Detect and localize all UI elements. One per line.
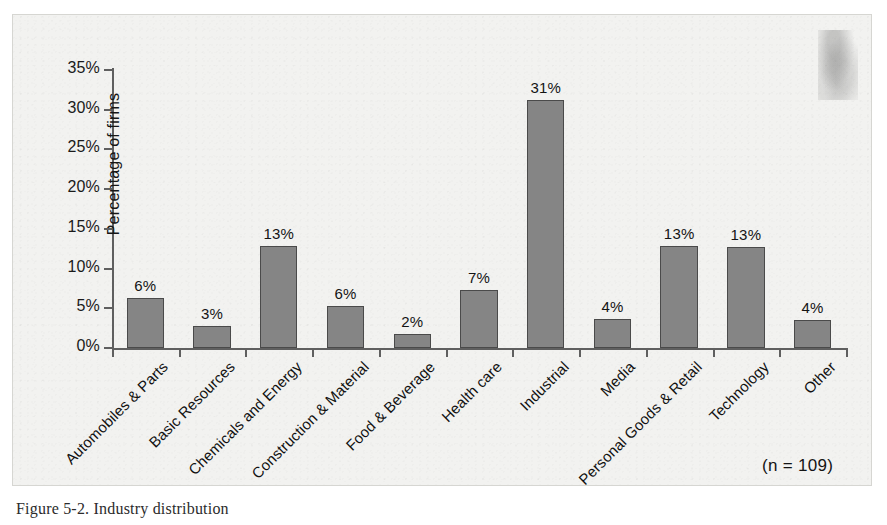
x-tick-mark [379,350,381,357]
bar: 13% [727,247,764,348]
x-tick-mark [779,350,781,357]
y-tick-label: 30% [44,99,100,117]
x-axis-line [112,348,848,350]
x-tick-mark [646,350,648,357]
bar-value-label: 6% [334,285,356,302]
figure-caption: Figure 5-2. Industry distribution [16,500,229,518]
y-tick-mark [104,148,112,150]
x-tick-mark [579,350,581,357]
bar: 2% [394,334,431,348]
x-tick-mark [312,350,314,357]
figure-page: Percentage of firms 0%5%10%15%20%25%30%3… [0,0,887,525]
y-tick-label: 25% [44,138,100,156]
y-tick-mark [104,347,112,349]
bar-value-label: 4% [802,299,824,316]
plot-area: 6%3%13%6%2%7%31%4%13%13%4% [112,70,846,348]
y-tick-mark [104,268,112,270]
bar: 6% [127,298,164,348]
bar: 4% [594,319,631,348]
bar: 6% [327,306,364,348]
y-tick-label: 35% [44,59,100,77]
sample-size-annotation: (n = 109) [762,456,833,476]
x-tick-mark [112,350,114,357]
y-tick-mark [104,307,112,309]
bar-value-label: 6% [134,277,156,294]
bar-value-label: 3% [201,305,223,322]
x-tick-mark [512,350,514,357]
x-tick-mark [846,350,848,357]
bar-value-label: 31% [530,79,561,96]
y-tick-mark [104,109,112,111]
y-tick-label: 5% [44,297,100,315]
bar: 13% [660,246,697,348]
y-tick-mark [104,188,112,190]
bar: 13% [260,246,297,348]
y-tick-label: 15% [44,218,100,236]
bar: 4% [794,320,831,348]
x-tick-mark [179,350,181,357]
bar-value-label: 13% [731,226,762,243]
y-tick-label: 0% [44,337,100,355]
y-tick-mark [104,228,112,230]
bar: 3% [193,326,230,348]
bar-value-label: 7% [468,269,490,286]
x-tick-mark [446,350,448,357]
x-tick-mark [245,350,247,357]
bar-value-label: 4% [601,298,623,315]
bar: 7% [460,290,497,348]
bar-value-label: 13% [263,225,294,242]
y-tick-label: 20% [44,178,100,196]
y-tick-label: 10% [44,258,100,276]
x-tick-mark [713,350,715,357]
bar: 31% [527,100,564,348]
bar-value-label: 2% [401,313,423,330]
bar-value-label: 13% [664,225,695,242]
y-tick-mark [104,69,112,71]
